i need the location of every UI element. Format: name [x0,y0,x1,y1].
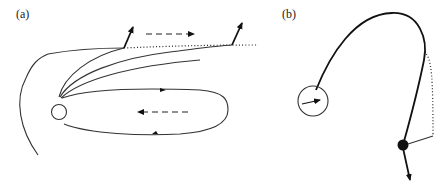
connector-line [408,136,433,144]
escape-arrow-1 [124,27,133,48]
panel-a-label: (a) [16,7,29,21]
escape-arrow-2 [232,23,242,45]
panel-b-label: (b) [282,7,296,21]
curved-trajectory [316,13,425,145]
loop-arrow-bottom [152,131,158,134]
figure-canvas: (a) (b) [0,0,446,187]
body-vector-arrow [302,100,320,104]
dotted-connector [424,52,433,136]
velocity-arrow [403,148,410,180]
panel-b: (b) [282,7,433,180]
body-circle-a [52,105,67,120]
outer-arc [20,54,48,155]
panel-a: (a) [16,7,258,155]
field-line-3 [61,60,200,98]
dotted-boundary [124,45,258,48]
